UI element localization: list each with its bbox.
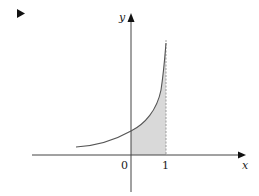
tick-label-0: 0: [121, 159, 128, 172]
x-axis-arrow-icon: [238, 152, 246, 159]
area-under-curve-diagram: y x 0 1: [0, 0, 259, 196]
tick-label-1: 1: [162, 159, 169, 172]
y-axis-arrow-icon: [128, 13, 135, 22]
shaded-area: [131, 43, 166, 155]
diagram-canvas: y x 0 1: [0, 0, 259, 196]
x-axis-label: x: [242, 159, 249, 172]
play-triangle-icon: [17, 9, 25, 18]
y-axis-label: y: [118, 11, 126, 24]
